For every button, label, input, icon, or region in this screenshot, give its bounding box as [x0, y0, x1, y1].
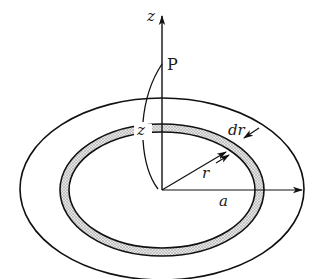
dr-arrow-outer [244, 128, 259, 138]
r-arrow [162, 152, 226, 190]
point-p-label: P [167, 55, 178, 74]
dr-label: dr [228, 121, 246, 139]
z-axis-label: z [146, 7, 155, 25]
height-arc-upper [143, 64, 162, 122]
height-arc-lower [143, 140, 158, 189]
r-label: r [202, 164, 210, 182]
height-z-label: z [136, 121, 145, 139]
disk-diagram: z P z dr r a [0, 0, 316, 279]
a-label: a [219, 192, 228, 210]
